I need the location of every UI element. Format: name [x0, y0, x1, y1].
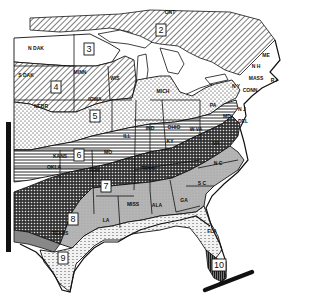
- zone-number: 6: [76, 150, 81, 160]
- zone-number: 10: [214, 260, 224, 270]
- state-label: S DAK: [18, 72, 34, 78]
- state-label: W VA: [190, 126, 203, 132]
- zone-number: 2: [158, 25, 163, 35]
- zone-number: 8: [70, 214, 75, 224]
- state-label: MICH: [157, 88, 170, 94]
- state-label: OKLA: [47, 164, 62, 170]
- state-label: S C: [198, 180, 207, 186]
- state-label: ARK: [90, 167, 101, 173]
- state-label: MO: [104, 149, 112, 155]
- zone-number: 7: [103, 181, 108, 191]
- zone-number: 3: [86, 44, 91, 54]
- state-label: OHIO: [168, 124, 181, 130]
- zone-marker: 2: [156, 24, 166, 36]
- state-label: ILL: [123, 133, 131, 139]
- state-label: N DAK: [28, 45, 44, 51]
- state-label: MD: [223, 113, 231, 119]
- zone-number: 9: [60, 253, 65, 263]
- state-label: KY: [167, 138, 175, 144]
- zone-number: 5: [92, 111, 97, 121]
- state-label: N Y: [232, 83, 241, 89]
- state-label: WIS: [110, 75, 120, 81]
- state-label: PA: [210, 102, 217, 108]
- lake-huron: [160, 48, 184, 74]
- state-label: N H: [252, 63, 261, 69]
- zone-marker: 9: [58, 252, 68, 264]
- state-label: TENN: [141, 165, 155, 171]
- state-label: N J: [238, 106, 246, 112]
- state-label: FLA: [207, 228, 217, 234]
- zone-marker: 4: [51, 81, 61, 93]
- state-label: LA: [103, 217, 110, 223]
- state-label: IND: [146, 125, 155, 131]
- zone-marker: 7: [101, 180, 111, 192]
- state-label: GA: [180, 197, 188, 203]
- state-label: ALA: [152, 202, 163, 208]
- state-label: MASS: [249, 75, 264, 81]
- map-canvas: ONTN DAKS DAKNEBRMINNWISIOWAMICHILLINDOH…: [0, 0, 309, 307]
- state-label: N C: [214, 160, 223, 166]
- state-label: VA: [213, 140, 220, 146]
- state-label: DEL: [238, 118, 248, 124]
- state-label: KANS: [53, 153, 68, 159]
- zone-marker: 3: [84, 43, 94, 55]
- state-label: MISS: [127, 201, 140, 207]
- zone-marker: 8: [68, 213, 78, 225]
- state-label: TEXAS: [52, 230, 69, 236]
- zone-marker: 5: [90, 110, 100, 122]
- state-label: IOWA: [88, 96, 102, 102]
- state-label: ME: [262, 52, 270, 58]
- state-label: R I: [271, 77, 278, 83]
- state-label: CONN: [243, 87, 258, 93]
- zone-map: ONTN DAKS DAKNEBRMINNWISIOWAMICHILLINDOH…: [0, 0, 309, 307]
- west-edge-bar: [6, 122, 11, 252]
- state-label: MINN: [74, 69, 87, 75]
- state-label: ONT: [165, 9, 176, 15]
- zone-number: 4: [53, 82, 58, 92]
- zone-marker: 6: [74, 149, 84, 161]
- zone-marker: 10: [212, 259, 226, 271]
- state-label: NEBR: [34, 103, 49, 109]
